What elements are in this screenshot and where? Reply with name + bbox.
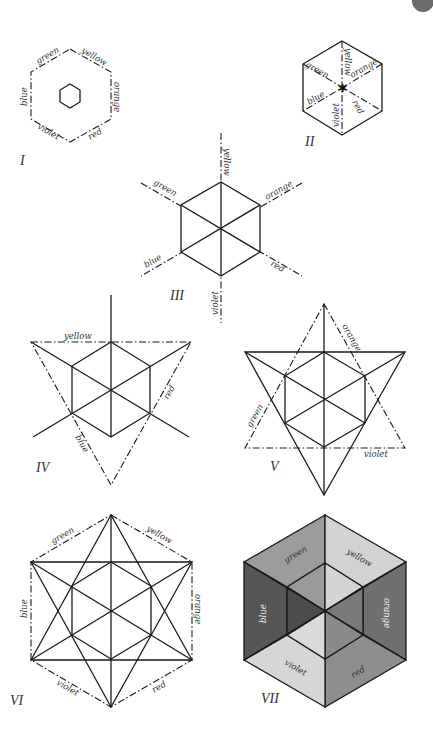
figure-iii-label-violet: violet <box>210 291 220 315</box>
figure-vii-label-orange: orange <box>382 598 392 628</box>
page-number-badge <box>412 0 433 12</box>
color-hexagon-diagram-page: green yellow orange red violet blue I ✱ … <box>0 0 433 736</box>
figure-iv: yellow red blue IV <box>31 295 191 485</box>
figure-v-diag-2 <box>285 352 405 423</box>
figure-i-label-orange: orange <box>112 82 122 112</box>
figure-vii-label-blue: blue <box>258 604 268 623</box>
figure-v-solid-triangle <box>245 352 405 495</box>
figure-ii-center-star-icon: ✱ <box>338 82 347 95</box>
figure-v-label-green: green <box>244 402 265 429</box>
figure-iv-label-blue: blue <box>73 433 91 454</box>
figure-iii-label-green: green <box>152 177 179 198</box>
figure-i: green yellow orange red violet blue I <box>19 45 122 168</box>
figure-iv-label-yellow: yellow <box>63 331 92 341</box>
figure-vii <box>244 515 406 707</box>
figure-i-label-green: green <box>34 45 61 66</box>
figure-v-numeral: V <box>270 459 280 474</box>
figure-vi-label-orange: orange <box>193 594 203 624</box>
figure-ii-label-green: green <box>304 59 331 80</box>
figure-vi-label-yellow: yellow <box>144 523 174 546</box>
figure-iv-numeral: IV <box>35 460 51 475</box>
figure-vi-label-red: red <box>150 679 168 695</box>
figure-ii: ✱ green yellow orange red violet blue II <box>303 41 382 149</box>
figure-vi: green yellow orange red violet blue VI <box>10 515 203 708</box>
figure-i-label-blue: blue <box>19 87 29 106</box>
figure-i-inner-hexagon <box>60 84 80 108</box>
figure-iii-label-red: red <box>269 258 287 274</box>
figure-iii: green yellow orange red violet blue III <box>141 133 302 323</box>
figure-vi-label-blue: blue <box>19 599 29 618</box>
figure-v-diag-1 <box>245 352 365 423</box>
figure-v-dashed-triangle <box>245 304 405 448</box>
figure-vi-label-green: green <box>49 525 76 546</box>
figure-vi-label-violet: violet <box>55 677 81 698</box>
figure-vi-numeral: VI <box>10 693 25 708</box>
figure-v-label-orange: orange <box>340 322 364 353</box>
figure-iii-label-yellow: yellow <box>222 147 232 176</box>
figure-iii-numeral: III <box>169 288 185 303</box>
figure-i-label-violet: violet <box>36 121 62 142</box>
figure-iv-label-red: red <box>161 383 177 401</box>
figure-vii-numeral: VII <box>261 691 280 706</box>
figure-v: orange green violet V <box>244 304 405 495</box>
figure-ii-numeral: II <box>304 134 316 149</box>
figure-v-label-violet: violet <box>364 449 388 459</box>
figure-i-numeral: I <box>19 153 26 168</box>
figure-ii-label-violet: violet <box>331 103 341 127</box>
figure-i-label-red: red <box>86 126 104 142</box>
figure-iii-label-blue: blue <box>142 252 163 270</box>
